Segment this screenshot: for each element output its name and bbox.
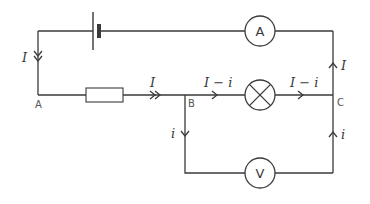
- node-c-label: C: [337, 97, 344, 108]
- current-label-lamp-to-c: I − i: [289, 75, 318, 90]
- resistor: [86, 88, 123, 102]
- battery-icon: [93, 12, 101, 50]
- lamp-icon: [245, 80, 275, 110]
- current-label-right-lower: i: [341, 127, 345, 142]
- circuit-diagram: A I A I B I − i I − i C I i i: [0, 0, 370, 204]
- current-label-b-to-lamp: I − i: [203, 75, 232, 90]
- voltmeter: V: [245, 158, 275, 188]
- ammeter: A: [245, 16, 275, 46]
- voltmeter-label: V: [256, 166, 265, 181]
- current-label-b-down: i: [171, 126, 175, 141]
- current-label-before-b: I: [149, 75, 156, 90]
- current-label-left: I: [21, 50, 28, 65]
- node-b-label: B: [188, 98, 195, 109]
- current-label-right-upper: I: [340, 58, 347, 73]
- node-a-label: A: [35, 99, 42, 110]
- ammeter-label: A: [256, 24, 265, 39]
